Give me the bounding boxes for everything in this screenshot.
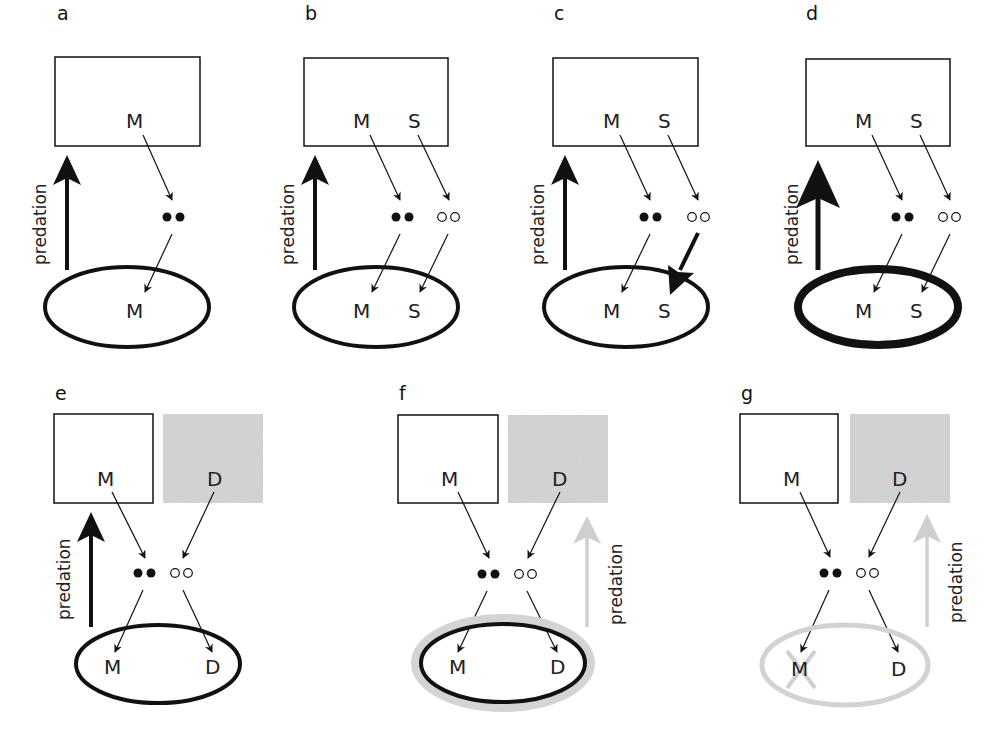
habitat-box <box>553 58 698 146</box>
filled-dot <box>833 569 842 578</box>
panel-label-c: c <box>554 2 564 24</box>
dispersal-arrow <box>112 492 145 558</box>
predation-label: predation <box>606 543 626 625</box>
species-label-m: M <box>353 109 370 133</box>
species-label-d: D <box>891 657 906 681</box>
filled-dot <box>163 213 172 222</box>
settlement-arrow <box>869 590 898 652</box>
settlement-arrow <box>874 234 902 292</box>
species-label-s: S <box>408 109 421 133</box>
species-label-m: M <box>449 655 466 679</box>
predation-label: predation <box>30 183 50 265</box>
filled-dot <box>491 570 500 579</box>
filled-dot <box>820 569 829 578</box>
figure-canvas: a M predation M b M S predation M S <box>0 0 998 737</box>
open-dot <box>184 569 193 578</box>
species-label-m: M <box>104 655 121 679</box>
open-dot <box>171 569 180 578</box>
population-ellipse-thick <box>798 269 958 345</box>
species-label-s: S <box>408 299 421 323</box>
panel-label-f: f <box>399 382 407 404</box>
predation-label: predation <box>54 538 74 620</box>
species-label-m: M <box>603 299 620 323</box>
species-label-m-extinct: M <box>791 657 808 681</box>
strong-settlement-arrow <box>680 233 698 270</box>
species-label-m: M <box>855 299 872 323</box>
dispersal-arrow <box>872 135 902 200</box>
species-label-s: S <box>910 109 923 133</box>
filled-dot <box>653 213 662 222</box>
panel-f: f M D predation M D <box>398 382 626 707</box>
species-label-s: S <box>658 299 671 323</box>
dispersal-arrow <box>920 135 950 200</box>
settlement-arrow <box>115 590 143 652</box>
population-ellipse <box>544 267 708 347</box>
panel-d: d M S predation M S <box>782 2 960 345</box>
habitat-box <box>304 58 448 146</box>
species-label-s: S <box>658 109 671 133</box>
panel-label-g: g <box>741 382 753 404</box>
open-dot <box>438 213 447 222</box>
panel-label-b: b <box>305 2 317 24</box>
panel-label-e: e <box>55 382 67 404</box>
population-ellipse <box>294 267 458 347</box>
species-label-m: M <box>353 299 370 323</box>
open-dot <box>870 569 879 578</box>
settlement-arrow <box>622 234 650 292</box>
species-label-d: D <box>207 467 222 491</box>
filled-dot <box>405 213 414 222</box>
habitat-box <box>806 59 950 146</box>
species-label-m: M <box>97 467 114 491</box>
panel-e: e M D predation M D <box>54 382 263 703</box>
filled-dot <box>392 213 401 222</box>
filled-dot <box>905 213 914 222</box>
filled-dot <box>640 213 649 222</box>
open-dot <box>939 213 948 222</box>
species-label-m: M <box>855 109 872 133</box>
panel-label-d: d <box>806 2 818 24</box>
open-dot <box>528 570 537 579</box>
panel-g: g M D predation M D <box>740 382 966 705</box>
predation-label: predation <box>782 183 802 265</box>
species-label-m: M <box>441 467 458 491</box>
dispersal-arrow <box>620 135 650 200</box>
predation-label: predation <box>278 183 298 265</box>
open-dot <box>515 570 524 579</box>
open-dot <box>451 213 460 222</box>
species-label-d: D <box>205 655 220 679</box>
settlement-arrow <box>145 234 172 292</box>
panel-b: b M S predation M S <box>278 2 459 347</box>
filled-dot <box>478 570 487 579</box>
species-label-m: M <box>126 109 143 133</box>
dispersal-arrow <box>458 492 489 558</box>
filled-dot <box>892 213 901 222</box>
predation-label: predation <box>946 541 966 623</box>
open-dot <box>688 213 697 222</box>
predation-label: predation <box>528 183 548 265</box>
dispersal-arrow <box>418 135 449 200</box>
dispersal-arrow <box>370 135 400 200</box>
species-label-d: D <box>892 467 907 491</box>
species-label-m: M <box>603 109 620 133</box>
open-dot <box>857 569 866 578</box>
species-label-s: S <box>910 299 923 323</box>
panel-c: c M S predation M S <box>528 2 709 347</box>
species-label-d: D <box>550 655 565 679</box>
filled-dot <box>134 569 143 578</box>
filled-dot <box>147 569 156 578</box>
settlement-arrow <box>372 234 400 292</box>
dispersal-arrow <box>143 135 172 200</box>
panel-a: a M predation M <box>30 2 209 347</box>
dispersal-arrow <box>800 492 830 557</box>
species-label-m: M <box>783 467 800 491</box>
filled-dot <box>176 213 185 222</box>
settlement-arrow <box>801 590 829 652</box>
species-label-m: M <box>126 299 143 323</box>
species-label-d: D <box>552 467 567 491</box>
panel-label-a: a <box>57 2 69 24</box>
open-dot <box>701 213 710 222</box>
dispersal-arrow <box>668 135 698 200</box>
open-dot <box>952 213 961 222</box>
settlement-arrow <box>183 590 212 652</box>
